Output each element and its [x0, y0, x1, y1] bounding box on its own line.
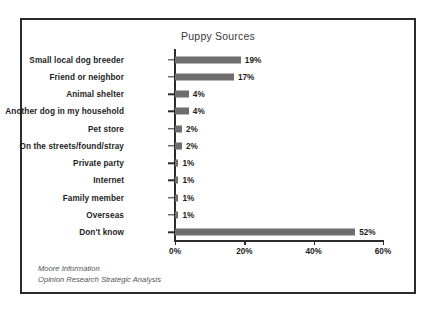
category-label: On the streets/found/stray: [19, 141, 124, 150]
x-axis-tick-label: 40%: [305, 247, 321, 256]
bar-value-label: 4%: [193, 90, 205, 99]
y-axis-tick: [168, 59, 174, 60]
bar: [175, 177, 178, 184]
bar: [175, 142, 182, 149]
x-axis-tick: [383, 240, 384, 245]
source-note: Moore Information Opinion Research Strat…: [38, 263, 161, 285]
category-label: Animal shelter: [66, 90, 124, 99]
category-label: Private party: [73, 159, 124, 168]
bar-value-label: 1%: [182, 159, 194, 168]
source-note-line-2: Opinion Research Strategic Analysis: [38, 274, 161, 285]
bar-row: Private party1%: [22, 155, 414, 172]
bar-value-label: 2%: [186, 141, 198, 150]
y-axis-tick: [168, 197, 174, 198]
y-axis-tick: [168, 111, 174, 112]
category-label: Friend or neighbor: [49, 72, 124, 81]
bar-row: Pet store2%: [22, 120, 414, 137]
category-label: Pet store: [88, 124, 124, 133]
bar-value-label: 52%: [359, 228, 375, 237]
category-label: Small local dog breeder: [29, 55, 124, 64]
chart-frame: Puppy Sources Small local dog breeder19%…: [20, 18, 416, 294]
x-axis-tick: [175, 240, 176, 245]
bar: [175, 56, 241, 63]
bar-row: Another dog in my household4%: [22, 103, 414, 120]
bar: [175, 91, 189, 98]
bar-row: Overseas1%: [22, 206, 414, 223]
bar-value-label: 1%: [182, 176, 194, 185]
y-axis-tick: [168, 162, 174, 163]
bar-value-label: 1%: [182, 193, 194, 202]
x-axis-tick-label: 0%: [169, 247, 181, 256]
y-axis-tick: [168, 93, 174, 94]
bar-row: Small local dog breeder19%: [22, 51, 414, 68]
plot-area: Small local dog breeder19%Friend or neig…: [22, 20, 414, 292]
y-axis-tick: [168, 180, 174, 181]
category-label: Another dog in my household: [5, 107, 124, 116]
y-axis-tick: [168, 145, 174, 146]
category-label: Family member: [63, 193, 124, 202]
bar-value-label: 17%: [238, 72, 254, 81]
bar: [175, 73, 234, 80]
y-axis-tick: [168, 231, 174, 232]
bar: [175, 125, 182, 132]
source-note-line-1: Moore Information: [38, 263, 161, 274]
bar: [175, 108, 189, 115]
bar: [175, 229, 355, 236]
bar-value-label: 4%: [193, 107, 205, 116]
bar-value-label: 2%: [186, 124, 198, 133]
bar-row: Family member1%: [22, 189, 414, 206]
bar-value-label: 19%: [245, 55, 261, 64]
x-axis-tick-label: 60%: [375, 247, 391, 256]
category-label: Overseas: [86, 210, 124, 219]
bar-row: On the streets/found/stray2%: [22, 137, 414, 154]
x-axis-tick: [244, 240, 245, 245]
category-label: Don't know: [79, 228, 124, 237]
bar-row: Don't know52%: [22, 224, 414, 241]
bar: [175, 194, 178, 201]
bar-row: Friend or neighbor17%: [22, 68, 414, 85]
y-axis-tick: [168, 128, 174, 129]
x-axis-tick-label: 20%: [236, 247, 252, 256]
bar-value-label: 1%: [182, 210, 194, 219]
y-axis-tick: [168, 76, 174, 77]
bar: [175, 211, 178, 218]
y-axis-tick: [168, 214, 174, 215]
bar-row: Animal shelter4%: [22, 86, 414, 103]
bar-row: Internet1%: [22, 172, 414, 189]
bar: [175, 160, 178, 167]
x-axis-tick: [314, 240, 315, 245]
category-label: Internet: [93, 176, 124, 185]
